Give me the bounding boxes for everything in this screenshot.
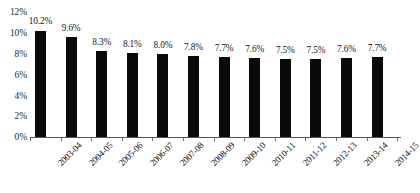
bar-value-label: 7.5% — [268, 46, 302, 55]
bar — [127, 53, 138, 137]
x-axis-line — [30, 137, 401, 138]
x-axis-tick — [214, 138, 215, 141]
bar — [372, 57, 383, 137]
y-axis-tick-label: 10% — [1, 29, 27, 39]
bar — [219, 57, 230, 137]
x-axis-tick — [336, 138, 337, 141]
x-axis-category-label: 2012-13 — [332, 141, 359, 168]
bar-value-label: 10.2% — [24, 17, 58, 26]
x-axis-category-label: 2011-12 — [301, 141, 328, 168]
bar-value-label: 8.1% — [115, 40, 149, 49]
bar — [96, 51, 107, 138]
x-axis-category-label: 2008-09 — [210, 141, 237, 168]
x-axis-tick — [152, 138, 153, 141]
x-axis-category-label: 2009-10 — [240, 141, 267, 168]
bar-value-label: 7.5% — [299, 46, 333, 55]
x-axis-tick — [91, 138, 92, 141]
x-axis-category-label: 2007-08 — [179, 141, 206, 168]
bar-value-label: 8.3% — [85, 38, 119, 47]
y-axis-tick-label: 8% — [1, 50, 27, 60]
bar — [280, 59, 291, 137]
x-axis-tick — [244, 138, 245, 141]
x-axis-category-label: 2003-04 — [57, 141, 84, 168]
bar — [249, 58, 260, 137]
bar-value-label: 7.6% — [330, 45, 364, 54]
x-axis-tick — [183, 138, 184, 141]
x-axis-category-label: 2004-05 — [87, 141, 114, 168]
x-axis-category-label: 2005-06 — [118, 141, 145, 168]
bar — [341, 58, 352, 137]
bar — [157, 54, 168, 137]
bar-value-label: 7.6% — [238, 45, 272, 54]
x-axis-tick — [122, 138, 123, 141]
x-axis-tick — [397, 138, 398, 141]
x-axis-tick — [61, 138, 62, 141]
x-axis-category-label: 2006-07 — [148, 141, 175, 168]
bar-value-label: 9.6% — [54, 24, 88, 33]
y-axis-tick-label: 4% — [1, 92, 27, 102]
x-axis-tick — [305, 138, 306, 141]
bar — [66, 37, 77, 137]
x-axis-tick — [367, 138, 368, 141]
x-axis-category-label: 2010-11 — [271, 141, 298, 168]
bar-value-label: 7.8% — [177, 43, 211, 52]
bar — [188, 56, 199, 137]
bar — [35, 31, 46, 137]
x-axis-category-label: 2014-15 — [393, 141, 420, 168]
y-axis-tick-label: 2% — [1, 112, 27, 122]
y-axis-tick-label: 0% — [1, 133, 27, 143]
y-axis-tick-label: 6% — [1, 71, 27, 81]
bar-value-label: 8.0% — [146, 41, 180, 50]
x-axis-category-label: 2013-14 — [363, 141, 390, 168]
x-axis-tick — [30, 138, 31, 141]
bar-value-label: 7.7% — [360, 44, 394, 53]
bar — [310, 59, 321, 137]
x-axis-tick — [275, 138, 276, 141]
bar-value-label: 7.7% — [207, 44, 241, 53]
